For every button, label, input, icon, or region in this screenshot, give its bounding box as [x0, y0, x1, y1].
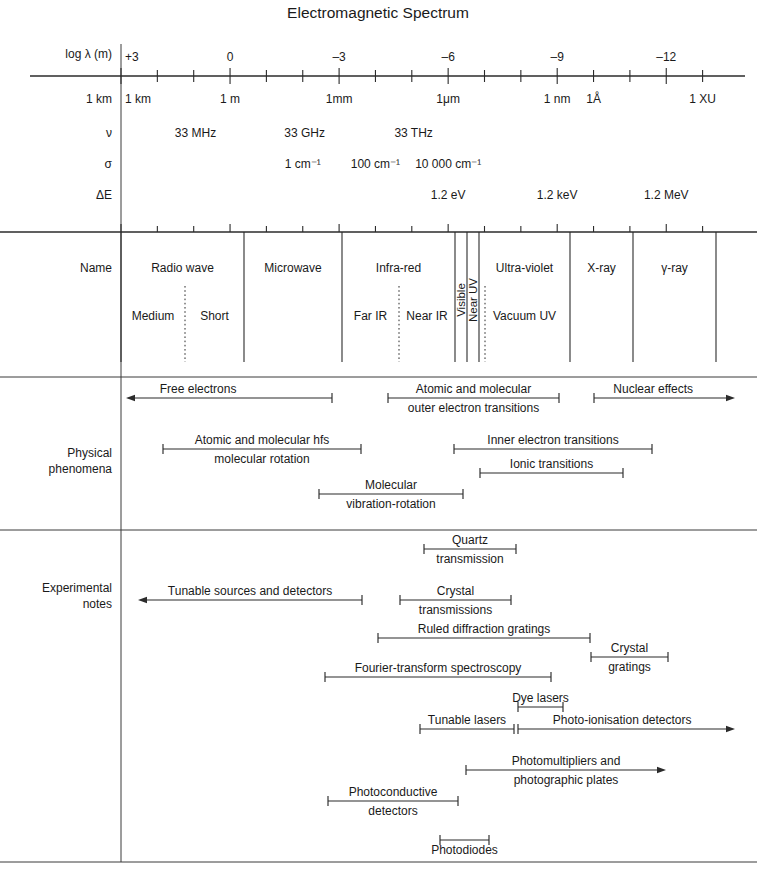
span-fourier-transform-spectroscopy: Fourier-transform spectroscopy: [325, 661, 551, 682]
span-tunable-sources-detectors: Tunable sources and detectors: [138, 584, 362, 605]
span-sublabel: molecular rotation: [214, 452, 309, 466]
span-sublabel: vibration-rotation: [346, 497, 435, 511]
row-label-physical-1: Physical: [67, 446, 112, 460]
band-sub-vacuum-uv: Vacuum UV: [493, 309, 556, 323]
name-band-layer: Radio waveMicrowaveInfra-redVisibleNear …: [121, 232, 716, 362]
scale-axis-layer: +30–3–6–9–121 km1 m1mm1μm1 nm1Å1 XU33 MH…: [0, 50, 757, 232]
span-ionic-transitions: Ionic transitions: [480, 457, 623, 478]
band-name-ultra-violet: Ultra-violet: [496, 261, 554, 275]
span-label: Ionic transitions: [510, 457, 593, 471]
span-photoconductive-detectors: Photoconductivedetectors: [328, 785, 458, 818]
span-tunable-lasers: Tunable lasers: [420, 713, 514, 734]
span-dye-lasers: Dye lasers: [512, 691, 569, 712]
span-label: Fourier-transform spectroscopy: [355, 661, 522, 675]
diagram-root: Electromagnetic Spectrum +30–3–6–9–121 k…: [0, 0, 757, 876]
electromagnetic-spectrum-figure: Electromagnetic Spectrum +30–3–6–9–121 k…: [0, 0, 757, 876]
span-label: Free electrons: [160, 382, 237, 396]
span-label: Crystal: [437, 584, 474, 598]
axis-tick-label: –9: [551, 50, 565, 64]
span-sublabel: transmissions: [419, 603, 492, 617]
span-label: Photoconductive: [349, 785, 438, 799]
axis-tick-label: 0: [227, 50, 234, 64]
span-label: Crystal: [611, 641, 648, 655]
row-label-experimental-1: Experimental: [42, 581, 112, 595]
wavelength-mark: 1 m: [220, 92, 240, 106]
row-label-wavelength: 1 km: [86, 92, 112, 106]
span-label: Ruled diffraction gratings: [418, 622, 551, 636]
span-free-electrons: Free electrons: [126, 382, 332, 403]
wavelength-mark: 1 km: [125, 92, 151, 106]
span-photodiodes: Photodiodes: [431, 835, 498, 857]
span-label: Photodiodes: [431, 843, 498, 857]
wavelength-mark: 1Å: [586, 91, 601, 106]
row-label-physical-2: phenomena: [49, 462, 113, 476]
span-arrow-left: [138, 597, 147, 603]
row-label-name: Name: [80, 261, 112, 275]
band-name-near-uv: Near UV: [467, 278, 479, 322]
axis-tick-label: –6: [441, 50, 455, 64]
axis-tick-label: –12: [656, 50, 676, 64]
span-quartz-transmission: Quartztransmission: [424, 533, 516, 566]
span-label: Nuclear effects: [613, 382, 693, 396]
page-title: Electromagnetic Spectrum: [287, 4, 469, 21]
row-label-sigma: σ: [105, 157, 113, 171]
span-sublabel: gratings: [608, 660, 651, 674]
span-label: Atomic and molecular hfs: [195, 433, 330, 447]
experimental-notes-layer: QuartztransmissionTunable sources and de…: [138, 533, 735, 857]
band-name--ray: γ-ray: [661, 261, 688, 275]
span-photomultipliers: Photomultipliers andphotographic plates: [466, 754, 666, 787]
span-label: Tunable sources and detectors: [168, 584, 332, 598]
span-label: Atomic and molecular: [416, 382, 531, 396]
span-photo-ionisation-detectors: Photo-ionisation detectors: [518, 713, 735, 734]
wavelength-mark: 1 XU: [689, 92, 716, 106]
span-sublabel: detectors: [368, 804, 417, 818]
span-ruled-diffraction-gratings: Ruled diffraction gratings: [378, 622, 590, 643]
span-inner-electron-transitions: Inner electron transitions: [454, 433, 652, 454]
band-sub-near-ir: Near IR: [406, 309, 448, 323]
frequency-mark: 33 GHz: [284, 126, 325, 140]
frequency-mark: 33 THz: [394, 126, 432, 140]
band-name-radio-wave: Radio wave: [151, 261, 214, 275]
frequency-mark: 33 MHz: [175, 126, 216, 140]
span-sublabel: transmission: [436, 552, 503, 566]
span-label: Photomultipliers and: [512, 754, 621, 768]
band-name-visible: Visible: [455, 283, 467, 317]
span-arrow-right: [726, 726, 735, 732]
span-crystal-transmissions: Crystaltransmissions: [400, 584, 511, 617]
wavenumber-mark: 1 cm⁻¹: [285, 157, 321, 171]
energy-mark: 1.2 keV: [537, 188, 578, 202]
energy-mark: 1.2 eV: [431, 188, 466, 202]
band-sub-short: Short: [200, 309, 229, 323]
row-labels-layer: log λ (m)1 kmνσΔENamePhysicalphenomenaEx…: [42, 47, 113, 611]
band-name-infra-red: Infra-red: [376, 261, 421, 275]
physical-phenomena-layer: Free electronsAtomic and molecularouter …: [126, 382, 735, 511]
axis-tick-label: +3: [125, 50, 139, 64]
span-crystal-gratings: Crystalgratings: [591, 641, 668, 674]
span-arrow-left: [126, 395, 135, 401]
span-nuclear-effects: Nuclear effects: [594, 382, 735, 403]
wavelength-mark: 1mm: [326, 92, 353, 106]
span-sublabel: outer electron transitions: [408, 401, 539, 415]
axis-tick-label: –3: [332, 50, 346, 64]
span-label: Tunable lasers: [428, 713, 506, 727]
span-arrow-right: [657, 767, 666, 773]
band-sub-medium: Medium: [132, 309, 175, 323]
row-label-experimental-2: notes: [83, 597, 112, 611]
band-name-x-ray: X-ray: [587, 261, 616, 275]
span-sublabel: photographic plates: [514, 773, 619, 787]
span-atomic-molecular-outer: Atomic and molecularouter electron trans…: [388, 382, 559, 415]
wavelength-mark: 1μm: [436, 92, 460, 106]
span-atomic-molecular-hfs: Atomic and molecular hfsmolecular rotati…: [163, 433, 361, 466]
energy-mark: 1.2 MeV: [644, 188, 689, 202]
row-label-log-lambda: log λ (m): [65, 47, 112, 61]
span-label: Inner electron transitions: [487, 433, 618, 447]
span-label: Quartz: [452, 533, 488, 547]
row-label-nu: ν: [106, 126, 112, 140]
wavenumber-mark: 10 000 cm⁻¹: [415, 157, 481, 171]
band-sub-far-ir: Far IR: [354, 309, 388, 323]
span-molecular-vibration-rotation: Molecularvibration-rotation: [319, 478, 463, 511]
row-label-delta-e: ΔE: [96, 188, 112, 202]
wavelength-mark: 1 nm: [544, 92, 571, 106]
span-label: Molecular: [365, 478, 417, 492]
span-label: Photo-ionisation detectors: [553, 713, 692, 727]
